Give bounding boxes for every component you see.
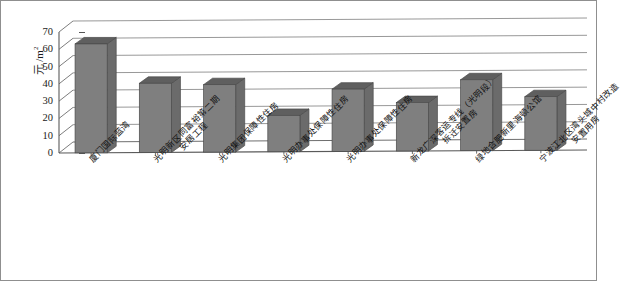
grid-depth-connector [59,73,73,84]
grid-depth-connector [59,21,73,32]
grid-line [73,18,587,21]
grid-line [73,70,587,73]
x-axis-tick-labels: 厦门国际蓝湾光明新区同富裕第二期安居工程光明集团保障性住房光明办事处保障性住房光… [1,151,598,282]
y-axis-tick-label: 50 [29,62,53,72]
grid-line [73,53,587,56]
chart-figure: 元 /m2 706050403020100 厦门国际蓝湾光明新区同富裕第二期安居… [0,0,597,281]
grid-depth-connector [59,90,73,101]
y-axis-tick-label: 30 [29,96,53,106]
y-axis-tick-labels: 706050403020100 [27,19,53,159]
axis-lines [59,32,587,156]
y-axis-tick-label: 40 [29,79,53,89]
bar-front-face [75,44,107,153]
y-axis-tick-label: 10 [29,131,53,141]
grid-line [73,35,587,38]
y-axis-tick-label: 60 [29,44,53,54]
grid-depth-connector [59,56,73,67]
grid-depth-connector [59,107,73,118]
grid-depth-connector [59,125,73,136]
grid-depth-connector [59,38,73,49]
y-axis-tick-label: 70 [29,27,53,37]
y-axis-tick-label: 20 [29,113,53,123]
